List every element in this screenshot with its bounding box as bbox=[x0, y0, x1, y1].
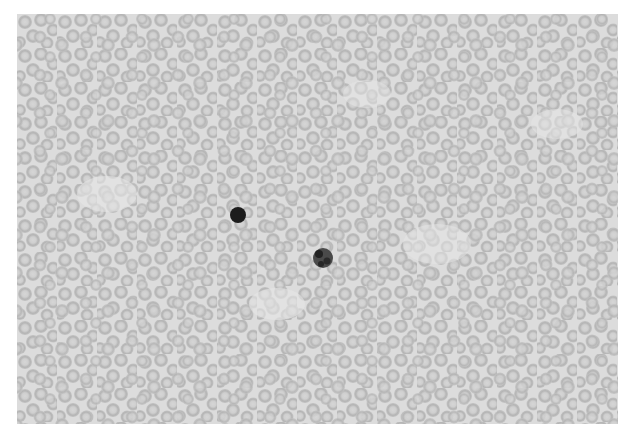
blood-smear-micrograph bbox=[17, 14, 618, 424]
red-blood-cell-field bbox=[17, 14, 618, 424]
lymphocyte-cell bbox=[230, 207, 246, 223]
